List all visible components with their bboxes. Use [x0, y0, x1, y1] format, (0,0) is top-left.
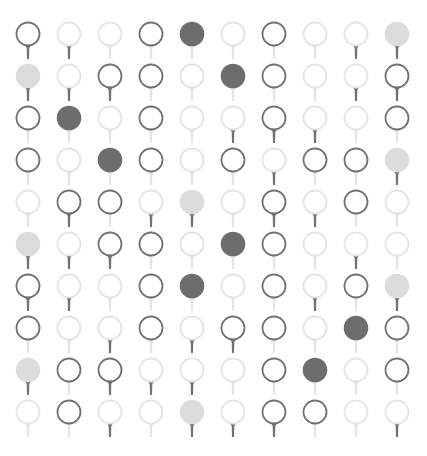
golf-ball-icon [99, 401, 122, 424]
golf-ball-on-tee [13, 105, 43, 145]
golf-ball-on-tee [259, 231, 289, 271]
golf-ball-on-tee [382, 315, 412, 355]
golf-ball-on-tee [218, 189, 248, 229]
golf-ball-icon [181, 65, 204, 88]
golf-ball-icon [58, 65, 81, 88]
golf-ball-on-tee [136, 147, 166, 187]
golf-ball-icon [386, 107, 409, 130]
golf-ball-icon [99, 107, 122, 130]
golf-ball-on-tee [341, 63, 371, 103]
golf-ball-icon [263, 23, 286, 46]
golf-ball-on-tee [95, 21, 125, 61]
golf-ball-on-tee [136, 357, 166, 397]
golf-ball-icon [263, 149, 286, 172]
golf-ball-on-tee [300, 105, 330, 145]
golf-ball-on-tee [218, 357, 248, 397]
golf-ball-icon [99, 23, 122, 46]
golf-ball-icon [263, 65, 286, 88]
golf-ball-icon [345, 401, 368, 424]
golf-ball-icon [263, 275, 286, 298]
golf-ball-on-tee [177, 231, 207, 271]
golf-ball-on-tee [54, 399, 84, 439]
golf-ball-icon [58, 359, 81, 382]
golf-ball-on-tee [95, 189, 125, 229]
golf-ball-on-tee [54, 357, 84, 397]
golf-ball-icon [180, 400, 205, 425]
golf-ball-icon [345, 65, 368, 88]
golf-ball-on-tee [13, 21, 43, 61]
golf-ball-icon [263, 107, 286, 130]
golf-ball-icon [181, 233, 204, 256]
golf-ball-on-tee [382, 189, 412, 229]
golf-ball-on-tee [341, 21, 371, 61]
golf-ball-icon [385, 274, 410, 299]
golf-ball-on-tee [136, 63, 166, 103]
golf-ball-on-tee [341, 147, 371, 187]
golf-ball-icon [181, 149, 204, 172]
golf-ball-icon [345, 275, 368, 298]
golf-ball-icon [386, 317, 409, 340]
golf-ball-icon [99, 233, 122, 256]
golf-ball-icon [263, 317, 286, 340]
golf-ball-icon [304, 401, 327, 424]
golf-ball-on-tee [177, 63, 207, 103]
golf-ball-icon [344, 316, 369, 341]
golf-ball-icon [222, 359, 245, 382]
golf-ball-on-tee [54, 273, 84, 313]
golf-ball-icon [345, 149, 368, 172]
golf-ball-on-tee [259, 315, 289, 355]
golf-ball-icon [263, 401, 286, 424]
golf-ball-icon [263, 359, 286, 382]
golf-ball-icon [181, 359, 204, 382]
golf-ball-on-tee [95, 105, 125, 145]
golf-ball-icon [180, 190, 205, 215]
golf-ball-icon [58, 191, 81, 214]
golf-ball-icon [58, 317, 81, 340]
golf-ball-icon [17, 149, 40, 172]
golf-ball-icon [58, 233, 81, 256]
golf-ball-icon [16, 358, 41, 383]
golf-ball-on-tee [341, 189, 371, 229]
golf-ball-icon [386, 401, 409, 424]
golf-ball-on-tee [259, 189, 289, 229]
golf-ball-icon [17, 107, 40, 130]
golf-ball-icon [58, 275, 81, 298]
golf-ball-on-tee [382, 273, 412, 313]
golf-ball-on-tee [300, 315, 330, 355]
golf-ball-on-tee [300, 357, 330, 397]
golf-ball-on-tee [259, 63, 289, 103]
golf-ball-icon [140, 401, 163, 424]
golf-ball-on-tee [95, 315, 125, 355]
golf-ball-on-tee [177, 273, 207, 313]
golf-ball-on-tee [13, 273, 43, 313]
golf-ball-on-tee [218, 399, 248, 439]
golf-ball-on-tee [300, 21, 330, 61]
golf-tee-grid [0, 0, 427, 456]
golf-ball-icon [221, 64, 246, 89]
golf-ball-on-tee [259, 105, 289, 145]
golf-ball-icon [140, 359, 163, 382]
golf-ball-on-tee [13, 399, 43, 439]
golf-ball-on-tee [13, 189, 43, 229]
golf-ball-on-tee [177, 189, 207, 229]
golf-ball-on-tee [177, 105, 207, 145]
golf-ball-icon [304, 107, 327, 130]
golf-ball-on-tee [300, 231, 330, 271]
golf-ball-icon [304, 317, 327, 340]
golf-ball-icon [140, 107, 163, 130]
golf-ball-on-tee [54, 63, 84, 103]
golf-ball-icon [222, 317, 245, 340]
golf-ball-icon [222, 275, 245, 298]
golf-ball-on-tee [95, 273, 125, 313]
golf-ball-on-tee [177, 357, 207, 397]
golf-ball-icon [222, 23, 245, 46]
golf-ball-icon [17, 23, 40, 46]
golf-ball-on-tee [136, 399, 166, 439]
golf-ball-icon [140, 191, 163, 214]
golf-ball-icon [386, 191, 409, 214]
golf-ball-icon [140, 65, 163, 88]
golf-ball-on-tee [95, 357, 125, 397]
golf-ball-on-tee [341, 357, 371, 397]
golf-ball-on-tee [341, 105, 371, 145]
golf-ball-on-tee [13, 231, 43, 271]
